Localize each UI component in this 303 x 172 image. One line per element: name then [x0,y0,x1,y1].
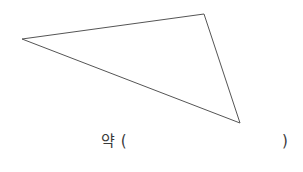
answer-blank-field[interactable] [131,130,281,152]
answer-prefix-label: 약 ( [101,130,127,152]
answer-row: 약 ( ) [0,130,303,156]
answer-suffix-label: ) [282,130,288,152]
